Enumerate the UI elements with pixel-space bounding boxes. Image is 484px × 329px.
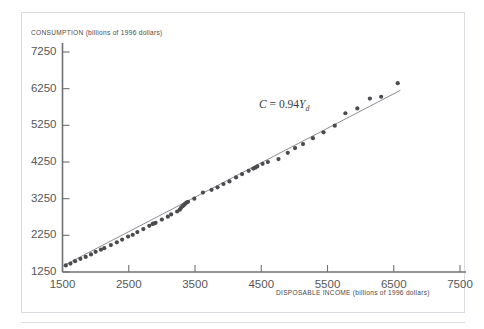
x-tick-label: 4500 <box>239 278 283 290</box>
y-tick-label: 4250 <box>21 155 57 167</box>
x-tick-label: 3500 <box>173 278 217 290</box>
regression-equation-label: C = 0.94Yd <box>259 98 309 113</box>
y-tick-label: 1250 <box>21 265 57 277</box>
y-tick-label: 6250 <box>21 82 57 94</box>
axis-lines <box>63 43 467 272</box>
y-axis-title: CONSUMPTION (billions of 1996 dollars) <box>31 29 163 36</box>
x-tick-label: 5500 <box>306 278 350 290</box>
y-tick-label: 3250 <box>21 192 57 204</box>
x-tick-label: 6500 <box>372 278 416 290</box>
y-tick-label: 7250 <box>21 45 57 57</box>
regression-line <box>63 90 401 266</box>
chart-figure: CONSUMPTION (billions of 1996 dollars) D… <box>0 0 484 329</box>
x-tick-label: 2500 <box>107 278 151 290</box>
x-axis-title: DISPOSABLE INCOME (billions of 1996 doll… <box>276 289 430 296</box>
equation-coefficient: 0.94 <box>279 98 299 110</box>
y-tick-label: 5250 <box>21 118 57 130</box>
equation-equals: = <box>267 98 279 110</box>
equation-lhs: C <box>259 98 267 110</box>
equation-subscript: d <box>305 104 309 113</box>
x-tick-label: 7500 <box>438 278 482 290</box>
x-tick-label: 1500 <box>41 278 85 290</box>
y-tick-label: 2250 <box>21 228 57 240</box>
